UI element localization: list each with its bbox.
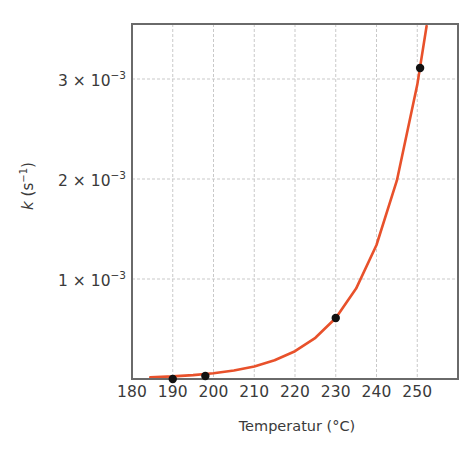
data-point bbox=[332, 314, 340, 322]
x-tick-label: 180 bbox=[112, 383, 152, 401]
x-tick-label: 240 bbox=[357, 383, 397, 401]
y-axis-label-exponent: −1 bbox=[18, 168, 29, 183]
data-point bbox=[201, 372, 209, 380]
y-tick-mantissa: 3 × 10 bbox=[58, 72, 110, 90]
x-tick-label: 200 bbox=[194, 383, 234, 401]
y-tick-mantissa: 2 × 10 bbox=[58, 172, 110, 190]
y-tick-exponent: −3 bbox=[111, 169, 126, 181]
x-tick-label: 230 bbox=[316, 383, 356, 401]
data-point bbox=[416, 64, 424, 72]
x-tick-label: 250 bbox=[397, 383, 437, 401]
data-point bbox=[169, 375, 177, 383]
y-axis-label-open: ( bbox=[19, 191, 37, 202]
y-axis-label-variable: k bbox=[19, 201, 37, 210]
y-axis-label: k (s−1) bbox=[18, 162, 37, 210]
x-tick-label: 190 bbox=[153, 383, 193, 401]
y-tick-exponent: −3 bbox=[111, 69, 126, 81]
plot-area bbox=[0, 0, 468, 449]
y-axis-label-close: ) bbox=[19, 162, 37, 168]
x-tick-label: 220 bbox=[275, 383, 315, 401]
y-tick-mantissa: 1 × 10 bbox=[58, 272, 110, 290]
y-tick-label: 3 × 10−3 bbox=[58, 70, 126, 90]
y-tick-label: 2 × 10−3 bbox=[58, 170, 126, 190]
y-tick-exponent: −3 bbox=[111, 269, 126, 281]
chart-figure: 180190200210220230240250 1 × 10−32 × 10−… bbox=[0, 0, 468, 449]
x-axis-label: Temperatur (°C) bbox=[197, 418, 397, 434]
x-tick-label: 210 bbox=[234, 383, 274, 401]
y-axis-label-unit: s bbox=[19, 183, 37, 191]
y-tick-label: 1 × 10−3 bbox=[58, 270, 126, 290]
